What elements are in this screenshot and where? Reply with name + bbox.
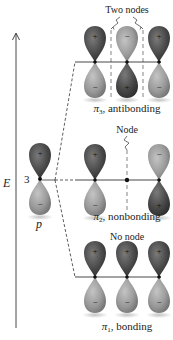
mo-label: π1, bonding — [102, 320, 153, 334]
phase-sign: + — [124, 246, 129, 256]
mo-lobe-pair: + − — [114, 241, 140, 318]
phase-sign: − — [156, 82, 161, 92]
level-pi1: No node + − + − + − π1, bonding — [75, 231, 172, 334]
node-annotation: Two nodes — [105, 4, 149, 15]
phase-sign: − — [156, 297, 161, 307]
node-point — [125, 178, 129, 182]
phase-sign: − — [124, 297, 129, 307]
phase-sign: + — [37, 148, 42, 158]
phase-sign: − — [37, 199, 42, 209]
phase-sign: + — [124, 82, 129, 92]
atomic-p-orbital: + − — [27, 143, 53, 220]
mo-lobe-pair: − + — [114, 26, 140, 103]
level-pi2: Node + − − + π2, nonbonding — [75, 124, 172, 224]
phase-sign: + — [156, 246, 161, 256]
level-pi3: Two nodes + − − + + − π3, antibonding — [75, 4, 172, 116]
phase-sign: − — [156, 149, 161, 159]
mo-lobe-pair: + − — [82, 26, 108, 103]
phase-sign: − — [92, 200, 97, 210]
node-annotation: Node — [116, 124, 138, 135]
node-annotation: No node — [110, 231, 145, 242]
orbital-count: 3 — [24, 173, 30, 185]
energy-axis: E — [2, 33, 20, 328]
phase-sign: + — [156, 200, 161, 210]
mo-lobe-pair: + − — [146, 26, 172, 103]
mo-lobe-pair: + − — [146, 241, 172, 318]
phase-sign: + — [156, 31, 161, 41]
allyl-mo-diagram: E + − 3 p Two nodes + − — [0, 0, 173, 340]
phase-sign: − — [92, 82, 97, 92]
correlation-lines — [55, 62, 75, 277]
mo-label: π2, nonbonding — [93, 210, 161, 224]
phase-sign: + — [92, 31, 97, 41]
p-orbital-label: p — [35, 217, 42, 231]
energy-axis-label: E — [2, 176, 11, 190]
phase-sign: + — [92, 246, 97, 256]
mo-label: π3, antibonding — [93, 102, 161, 116]
phase-sign: − — [124, 31, 129, 41]
mo-lobe-pair: + − — [82, 241, 108, 318]
phase-sign: − — [92, 297, 97, 307]
phase-sign: + — [92, 149, 97, 159]
